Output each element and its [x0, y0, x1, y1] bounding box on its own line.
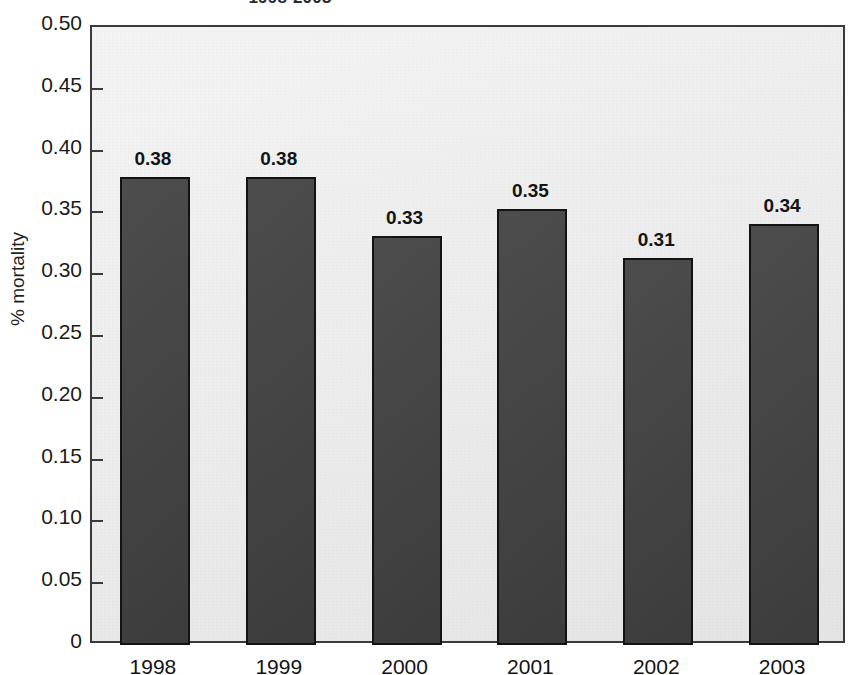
y-tick-mark — [92, 520, 103, 522]
y-tick-mark — [92, 335, 103, 337]
bar-2002 — [623, 258, 693, 645]
y-tick-mark — [92, 459, 103, 461]
bar-2001 — [497, 209, 567, 645]
bar-value-label-2002: 0.31 — [616, 229, 696, 251]
x-tick-label-2001: 2001 — [480, 655, 580, 675]
bar-value-label-1998: 0.38 — [113, 148, 193, 170]
y-tick-mark — [92, 150, 103, 152]
y-tick-mark — [92, 88, 103, 90]
y-tick-label: 0.50 — [14, 11, 82, 35]
x-tick-label-2000: 2000 — [355, 655, 455, 675]
y-tick-label: 0.10 — [14, 505, 82, 529]
y-tick-label: 0.25 — [14, 320, 82, 344]
bar-2000 — [372, 236, 442, 645]
bar-chart-figure: 1998-2003 % mortality 00.050.100.150.200… — [0, 0, 859, 675]
y-tick-mark — [92, 397, 103, 399]
y-tick-label: 0.30 — [14, 258, 82, 282]
bar-value-label-1999: 0.38 — [239, 148, 319, 170]
x-tick-label-2002: 2002 — [606, 655, 706, 675]
y-tick-label: 0.15 — [14, 444, 82, 468]
y-tick-label: 0.40 — [14, 135, 82, 159]
x-tick-label-1998: 1998 — [103, 655, 203, 675]
y-tick-label: 0 — [14, 629, 82, 653]
bar-value-label-2003: 0.34 — [742, 195, 822, 217]
y-tick-label: 0.20 — [14, 382, 82, 406]
bar-1999 — [246, 177, 316, 645]
y-tick-mark — [92, 582, 103, 584]
bar-value-label-2001: 0.35 — [490, 180, 570, 202]
y-tick-mark — [92, 273, 103, 275]
plot-area — [90, 25, 845, 643]
x-tick-label-1999: 1999 — [229, 655, 329, 675]
y-tick-label: 0.45 — [14, 73, 82, 97]
plot-texture-overlay — [92, 27, 843, 641]
bar-1998 — [120, 177, 190, 645]
bar-2003 — [749, 224, 819, 645]
y-tick-label: 0.35 — [14, 196, 82, 220]
y-tick-mark — [92, 211, 103, 213]
y-tick-label: 0.05 — [14, 567, 82, 591]
x-tick-label-2003: 2003 — [732, 655, 832, 675]
bar-value-label-2000: 0.33 — [365, 207, 445, 229]
chart-title: 1998-2003 — [90, 0, 490, 6]
